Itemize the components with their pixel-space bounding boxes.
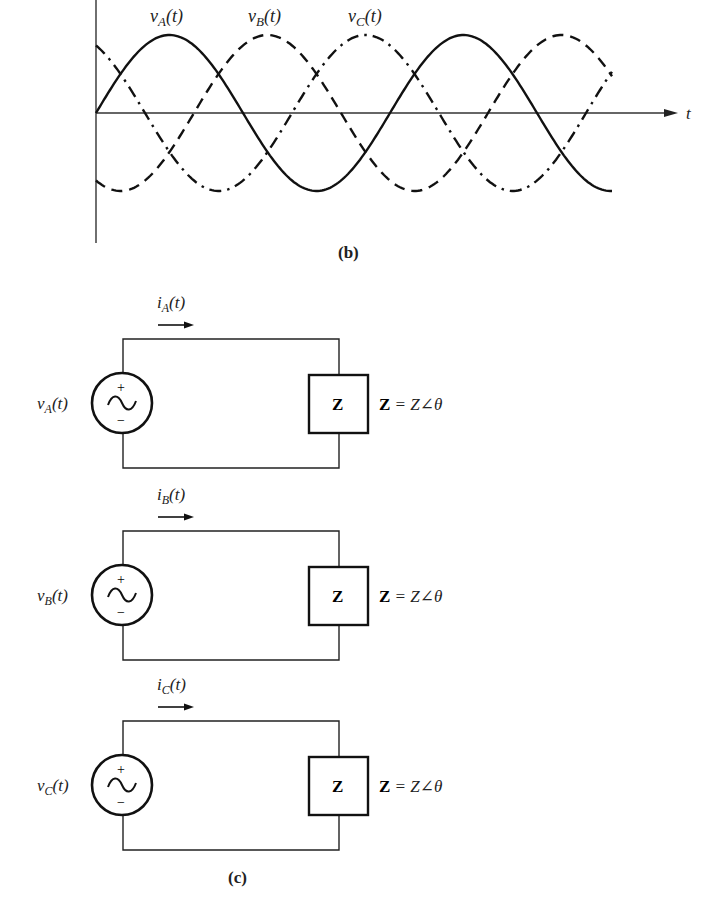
current-label-C: iC(t) — [157, 675, 186, 697]
source-label-B: vB(t) — [37, 586, 68, 608]
waveform-panel: t vA(t) vB(t) vC(t) (b) — [96, 0, 692, 262]
source-minus: − — [117, 605, 125, 620]
bottom-wire — [123, 625, 339, 660]
top-wire — [123, 531, 339, 567]
caption-c: (c) — [228, 868, 247, 887]
impedance-equation: Z = Z∠θ — [379, 395, 442, 414]
source-plus: + — [117, 762, 125, 777]
current-arrow-icon — [184, 704, 194, 711]
load-label: Z — [332, 777, 343, 796]
load-label: Z — [332, 395, 343, 414]
current-label-A: iA(t) — [157, 293, 185, 315]
caption-b: (b) — [338, 243, 359, 262]
source-label-C: vC(t) — [37, 776, 69, 798]
current-label-B: iB(t) — [157, 485, 185, 507]
load-label: Z — [332, 587, 343, 606]
impedance-equation: Z = Z∠θ — [379, 777, 442, 796]
source-label-A: vA(t) — [37, 394, 68, 416]
bottom-wire — [123, 433, 339, 468]
current-arrow-icon — [184, 322, 194, 329]
circuit-phase-C: iC(t) + − vC(t) Z Z = Z∠θ — [37, 675, 442, 850]
impedance-equation: Z = Z∠θ — [379, 587, 442, 606]
current-arrow-icon — [184, 514, 194, 521]
source-minus: − — [117, 795, 125, 810]
label-vB: vB(t) — [248, 6, 281, 29]
t-axis-label: t — [686, 104, 692, 123]
circuit-phase-B: iB(t) + − vB(t) Z Z = Z∠θ — [37, 485, 442, 660]
top-wire — [123, 339, 339, 375]
label-vA: vA(t) — [150, 6, 183, 29]
top-wire — [123, 721, 339, 757]
label-vC: vC(t) — [348, 6, 382, 29]
t-axis-arrow-icon — [664, 109, 678, 117]
bottom-wire — [123, 815, 339, 850]
circuit-phase-A: iA(t) + − vA(t) Z Z = Z∠θ — [37, 293, 442, 468]
source-plus: + — [117, 572, 125, 587]
source-minus: − — [117, 413, 125, 428]
source-plus: + — [117, 380, 125, 395]
figure-canvas: t vA(t) vB(t) vC(t) (b) iA(t) + − vA(t) … — [0, 0, 726, 919]
